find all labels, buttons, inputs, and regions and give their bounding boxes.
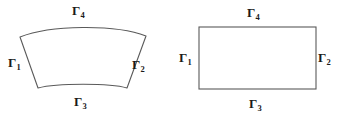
curved-label-gamma2: Γ2	[132, 58, 145, 71]
rect-label-gamma2: Γ2	[318, 51, 331, 64]
rect-label-gamma1-letter: Γ	[179, 50, 187, 65]
curved-label-gamma2-subscript: 2	[141, 64, 145, 74]
rect-label-gamma4-subscript: 4	[256, 12, 260, 22]
curved-label-gamma4: Γ4	[72, 4, 85, 17]
rect-label-gamma2-subscript: 2	[327, 57, 331, 67]
curved-quadrilateral-outline	[20, 27, 146, 88]
curved-label-gamma1-subscript: 1	[17, 62, 21, 72]
curved-label-gamma3: Γ3	[74, 95, 87, 108]
figure-canvas	[0, 0, 345, 120]
curved-label-gamma4-letter: Γ	[72, 3, 80, 18]
curved-label-gamma3-subscript: 3	[83, 101, 87, 111]
rectangle-outline	[199, 27, 316, 89]
rect-label-gamma1: Γ1	[179, 51, 192, 64]
rect-label-gamma3-subscript: 3	[258, 103, 262, 113]
geometry-figure: Γ4 Γ1 Γ2 Γ3 Γ4 Γ1 Γ2 Γ3	[0, 0, 345, 120]
curved-label-gamma1-letter: Γ	[8, 55, 16, 70]
curved-label-gamma1: Γ1	[8, 56, 21, 69]
curved-label-gamma2-letter: Γ	[132, 57, 140, 72]
rect-label-gamma2-letter: Γ	[318, 50, 326, 65]
curved-label-gamma4-subscript: 4	[81, 10, 85, 20]
rect-label-gamma4-letter: Γ	[247, 5, 255, 20]
rect-label-gamma4: Γ4	[247, 6, 260, 19]
rect-label-gamma3-letter: Γ	[249, 96, 257, 111]
rect-label-gamma3: Γ3	[249, 97, 262, 110]
rect-label-gamma1-subscript: 1	[188, 57, 192, 67]
curved-label-gamma3-letter: Γ	[74, 94, 82, 109]
